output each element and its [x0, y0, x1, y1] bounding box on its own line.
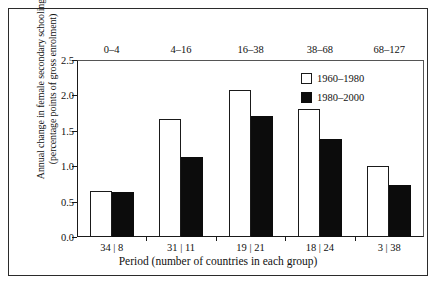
legend-item-1: 1980–2000: [301, 92, 364, 103]
y-tick-label: 2.5: [61, 55, 74, 66]
y-tick-label: 0.5: [61, 196, 74, 207]
bar-group-1: [159, 60, 203, 237]
bottom-count-label-2: 19 | 21: [219, 242, 283, 253]
plot-area: 0.00.51.01.52.02.5 0–44–1616–3838–6868–1…: [77, 60, 424, 237]
legend-label-0: 1960–1980: [317, 73, 364, 84]
bar-group-0: [90, 60, 134, 237]
y-axis-title-line1: Annual change in female secondary school…: [35, 0, 47, 179]
bottom-count-label-3: 18 | 24: [288, 242, 352, 253]
top-category-label-4: 68–127: [357, 44, 421, 55]
bar-group-2: [229, 60, 273, 237]
x-tick-mark-3: [355, 237, 356, 241]
top-category-label-3: 38–68: [288, 44, 352, 55]
legend-item-0: 1960–1980: [301, 73, 364, 84]
bar-open-4[interactable]: [367, 166, 389, 237]
chart-figure: Annual change in female secondary school…: [8, 8, 428, 276]
y-tick-label: 1.0: [61, 161, 74, 172]
bar-open-2[interactable]: [229, 90, 251, 237]
legend-swatch-filled-icon: [301, 92, 312, 103]
x-tick-mark-0: [146, 237, 147, 241]
y-axis-title-line2: (percentage points of gross enrolment): [47, 0, 59, 179]
bar-filled-1[interactable]: [181, 157, 203, 237]
bottom-count-label-1: 31 | 11: [149, 242, 213, 253]
bottom-count-label-0: 34 | 8: [80, 242, 144, 253]
top-category-label-2: 16–38: [219, 44, 283, 55]
bottom-count-label-4: 3 | 38: [357, 242, 421, 253]
bar-filled-0[interactable]: [112, 192, 134, 237]
y-axis-title: Annual change in female secondary school…: [30, 0, 64, 184]
x-tick-mark-2: [285, 237, 286, 241]
chart-legend: 1960–1980 1980–2000: [301, 73, 364, 111]
legend-swatch-open-icon: [301, 73, 312, 84]
y-tick-label: 1.5: [61, 125, 74, 136]
bar-open-1[interactable]: [159, 119, 181, 237]
y-tick-label: 0.0: [61, 232, 74, 243]
x-tick-mark-1: [216, 237, 217, 241]
bar-open-0[interactable]: [90, 191, 112, 237]
bar-filled-2[interactable]: [251, 116, 273, 237]
bar-group-4: [367, 60, 411, 237]
x-axis-title: Period (number of countries in each grou…: [9, 255, 427, 267]
y-tick-label: 2.0: [61, 90, 74, 101]
bar-open-3[interactable]: [298, 109, 320, 237]
top-category-label-0: 0–4: [80, 44, 144, 55]
bar-filled-4[interactable]: [389, 185, 411, 237]
legend-label-1: 1980–2000: [317, 92, 364, 103]
top-category-label-1: 4–16: [149, 44, 213, 55]
bar-filled-3[interactable]: [320, 139, 342, 237]
